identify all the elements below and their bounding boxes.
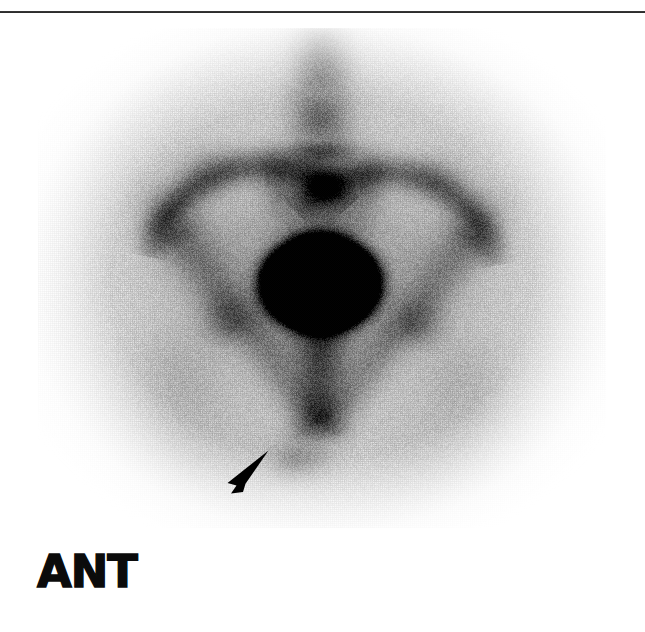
top-divider-rule [0, 11, 645, 13]
bone-scintigram-figure: ANT [0, 0, 645, 632]
scan-image-field [38, 28, 606, 528]
orientation-label: ANT [37, 549, 137, 595]
scintigram-canvas [38, 28, 606, 528]
lesion-arrowhead-icon [218, 444, 276, 502]
